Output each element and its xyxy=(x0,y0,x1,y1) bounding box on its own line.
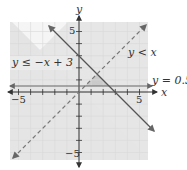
y-axis-label: y xyxy=(75,3,83,16)
x-tick-label-5: 5 xyxy=(136,94,142,105)
x-axis-label: x xyxy=(161,86,168,99)
label-y-le-neg-x-plus-3: y ≤ −x + 3 xyxy=(11,56,73,69)
y-tick-label-5: 5 xyxy=(69,25,75,36)
inequality-graph: y x 5 −5 −5 5 y ≤ −x + 3 y < x y = 0.5 xyxy=(0,0,187,170)
label-y-eq-0.5: y = 0.5 xyxy=(151,74,187,87)
x-tick-label-neg5: −5 xyxy=(11,94,26,105)
label-y-lt-x: y < x xyxy=(127,46,157,59)
y-tick-label-neg5: −5 xyxy=(65,148,80,159)
